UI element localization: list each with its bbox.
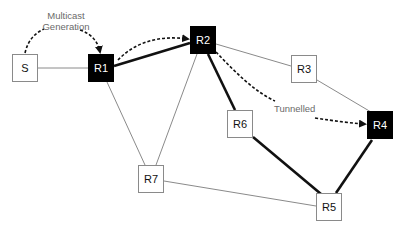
multicast-arrow-from-s	[25, 29, 44, 53]
node-r3: R3	[291, 55, 317, 83]
tunnelled-label: Tunnelled	[274, 103, 315, 114]
node-r1: R1	[88, 54, 114, 82]
node-r5: R5	[316, 193, 342, 221]
multicast-arrow-to-r1	[80, 30, 100, 52]
node-r7: R7	[138, 165, 164, 193]
multicast-generation-label: Multicast Generation	[36, 10, 96, 32]
edge-r1-r2	[114, 43, 190, 66]
edge-r7-r5	[164, 181, 316, 206]
edge-r2-r6	[208, 54, 235, 110]
edge-r1-r7	[107, 82, 145, 165]
edge-r6-r5	[253, 137, 321, 194]
r1-to-r2-arrow	[118, 38, 188, 60]
tunnel-arrow-segment-1	[216, 52, 275, 101]
multicast-label-line1: Multicast	[36, 10, 96, 21]
edge-r3-r4	[317, 80, 371, 112]
edge-r2-r7	[156, 54, 197, 165]
multicast-label-line2: Generation	[36, 21, 96, 32]
node-r2: R2	[190, 26, 216, 54]
node-r4: R4	[367, 111, 393, 139]
node-s: S	[12, 54, 38, 82]
edge-r4-r5	[336, 140, 372, 193]
node-r6: R6	[227, 110, 253, 138]
tunnel-arrow-segment-2	[315, 118, 365, 124]
